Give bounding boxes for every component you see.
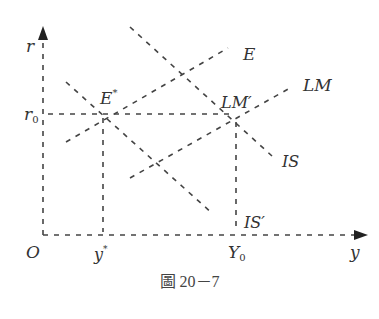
y-axis [38,26,48,235]
IS-curve-label: IS [281,152,299,171]
LM-prime-label: LM′ [220,93,252,112]
Y0-label: Y0 [228,242,246,263]
x-axis-arrow-icon [354,230,368,240]
x-axis-label: y [349,242,360,262]
E-star-label: E* [99,87,117,108]
x-axis [43,230,368,240]
IS-prime-line [66,82,213,214]
r0-label: r0 [24,104,39,125]
LM-line [130,88,290,178]
origin-label: O [26,242,40,262]
LM-curve-label: LM [302,75,332,95]
y-axis-arrow-icon [38,26,48,40]
ystar-label: y* [93,244,108,264]
y-axis-label: r [26,36,35,56]
figure-caption: 圖 20－7 [0,268,379,292]
IS-prime-label: IS′ [243,213,265,232]
E-curve-label: E [242,44,256,64]
